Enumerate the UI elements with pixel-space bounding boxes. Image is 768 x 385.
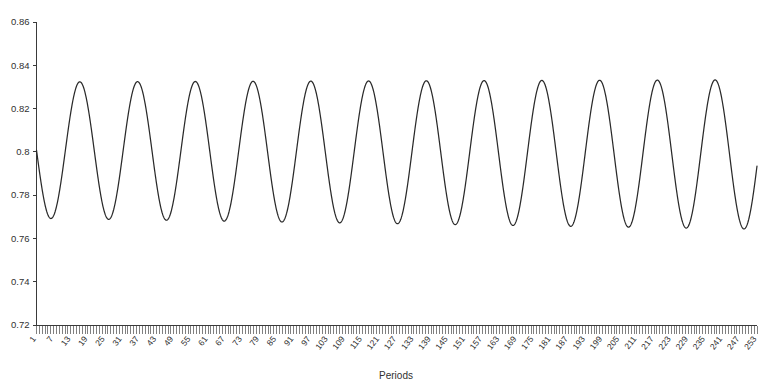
y-tick-label: 0.72 — [11, 319, 30, 330]
y-tick-label: 0.78 — [11, 189, 30, 200]
chart-canvas: 0.720.740.760.780.80.820.840.86 17131925… — [0, 0, 768, 385]
y-tick-label: 0.74 — [11, 276, 30, 287]
y-tick-label: 0.82 — [11, 103, 30, 114]
y-tick-label: 0.86 — [11, 16, 30, 27]
y-tick-label: 0.84 — [11, 60, 30, 71]
chart-background — [0, 0, 768, 385]
y-tick-label: 0.76 — [11, 233, 30, 244]
x-axis-title: Periods — [379, 370, 413, 381]
y-tick-label: 0.8 — [16, 146, 29, 157]
chart-figure: 0.720.740.760.780.80.820.840.86 17131925… — [0, 0, 768, 385]
